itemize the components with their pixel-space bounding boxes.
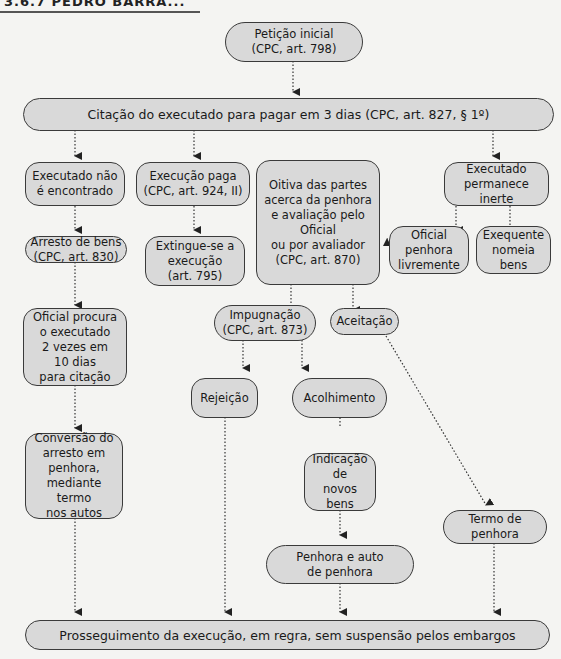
node-indicacao: Indicação de novos bens [304,453,376,511]
node-oitiva: Oitiva das partes acerca da penhora e av… [256,160,380,285]
node-peticao-inicial: Petição inicial (CPC, art. 798) [225,22,363,62]
node-penhora-auto: Penhora e auto de penhora [266,545,414,584]
node-arresto: Arresto de bens (CPC, art. 830) [25,236,127,263]
node-exequente-nomeia: Exequente nomeia bens [476,226,551,274]
node-aceitacao: Aceitação [330,308,399,335]
node-conversao: Conversão do arresto em penhora, mediant… [25,433,123,519]
node-impugnacao: Impugnação (CPC, art. 873) [214,305,316,341]
node-termo-penhora: Termo de penhora [443,510,547,544]
node-citacao: Citação do executado para pagar em 3 dia… [23,98,554,131]
node-oficial-procura: Oficial procura o executado 2 vezes em 1… [23,308,127,386]
node-prosseguimento: Prosseguimento da execução, em regra, se… [25,620,550,650]
node-acolhimento: Acolhimento [292,378,387,418]
node-execucao-paga: Execução paga (CPC, art. 924, II) [136,162,250,206]
node-executado-inerte: Executado permanece inerte [444,162,549,206]
node-executado-nao-encontrado: Executado não é encontrado [25,162,125,206]
node-rejeicao: Rejeição [191,378,258,418]
node-extingue: Extingue-se a execução (art. 795) [145,236,245,286]
node-oficial-penhora: Oficial penhora livremente [389,226,469,274]
